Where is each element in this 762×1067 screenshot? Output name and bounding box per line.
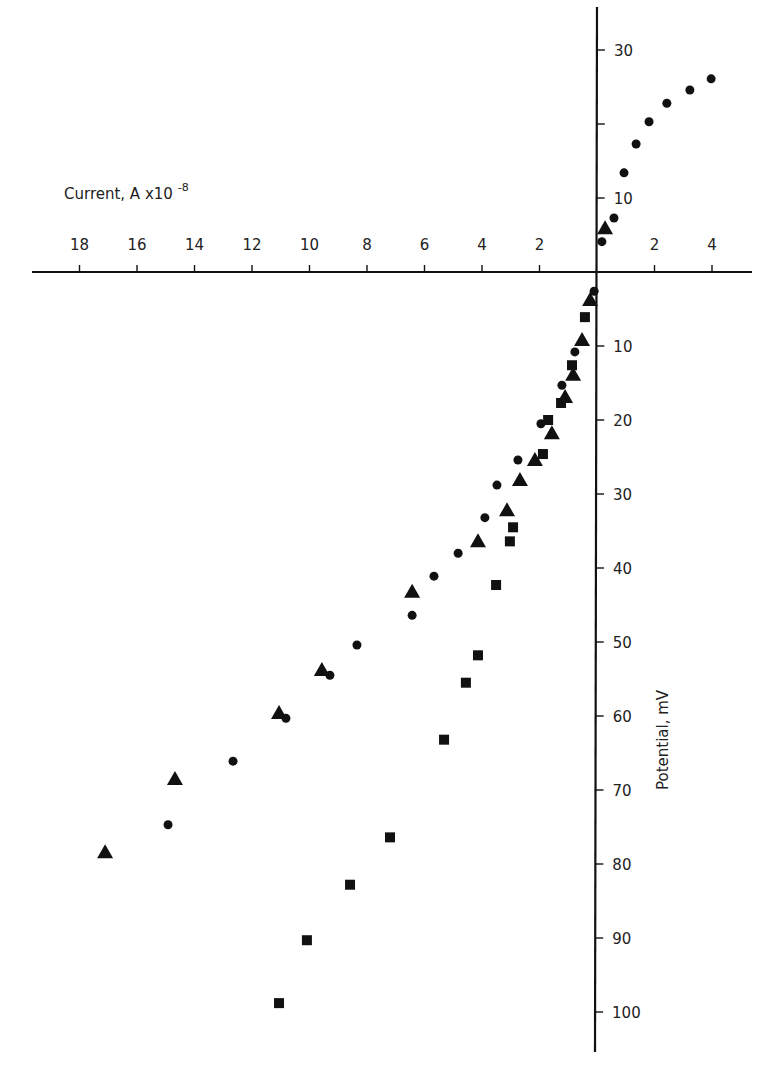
y-tick-label: 30 <box>613 486 632 504</box>
triangle-marker <box>314 662 330 676</box>
triangle-marker <box>167 771 183 785</box>
square-marker <box>567 360 577 370</box>
scatter-chart: 1816141210864224 30101020304050607080901… <box>0 0 762 1067</box>
circle-marker <box>609 213 618 222</box>
square-marker <box>491 580 501 590</box>
square-marker <box>538 449 548 459</box>
square-marker <box>580 312 590 322</box>
square-marker <box>543 415 553 425</box>
x-axis-title-text: Current, A x10 <box>64 185 173 203</box>
square-marker <box>302 935 312 945</box>
circle-marker <box>632 139 641 148</box>
square-marker <box>473 650 483 660</box>
circle-marker <box>408 611 417 620</box>
circle-marker <box>429 572 438 581</box>
x-tick-label: 12 <box>242 236 261 254</box>
circle-marker <box>164 820 173 829</box>
series-triangles <box>97 220 613 858</box>
circle-marker <box>662 99 671 108</box>
y-tick-label: 30 <box>614 42 633 60</box>
y-tick-label: 90 <box>612 930 631 948</box>
triangle-marker <box>512 472 528 486</box>
y-axis-title: Potential, mV <box>654 689 672 790</box>
x-tick-label: 18 <box>70 236 89 254</box>
circle-marker <box>492 481 501 490</box>
circle-marker <box>557 381 566 390</box>
x-axis-ticks: 1816141210864224 <box>70 236 717 272</box>
square-marker <box>508 522 518 532</box>
x-tick-label: 4 <box>477 236 487 254</box>
triangle-marker <box>544 425 560 439</box>
triangle-marker <box>271 705 287 719</box>
square-marker <box>461 678 471 688</box>
y-tick-label: 20 <box>613 412 632 430</box>
circle-marker <box>597 237 606 246</box>
y-tick-label: 50 <box>613 634 632 652</box>
x-tick-label: 2 <box>650 236 660 254</box>
triangle-marker <box>597 220 613 234</box>
square-marker <box>385 832 395 842</box>
y-axis-line <box>595 7 597 1052</box>
triangle-marker <box>574 332 590 346</box>
series-circles <box>164 74 716 829</box>
circle-marker <box>570 347 579 356</box>
axes <box>32 7 752 1052</box>
circle-marker <box>229 757 238 766</box>
series-squares <box>274 312 590 1008</box>
x-axis-title: Current, A x10 -8 <box>64 181 189 203</box>
triangle-marker <box>97 844 113 858</box>
y-tick-label: 80 <box>612 856 631 874</box>
x-tick-label: 10 <box>300 236 319 254</box>
y-axis-ticks: 3010102030405060708090100 <box>595 42 641 1022</box>
y-tick-label: 10 <box>614 190 633 208</box>
x-tick-label: 2 <box>535 236 545 254</box>
square-marker <box>274 998 284 1008</box>
x-tick-label: 16 <box>127 236 146 254</box>
square-marker <box>556 398 566 408</box>
circle-marker <box>707 74 716 83</box>
x-tick-label: 6 <box>420 236 430 254</box>
square-marker <box>439 735 449 745</box>
circle-marker <box>645 117 654 126</box>
y-tick-label: 60 <box>613 708 632 726</box>
y-tick-label: 40 <box>613 560 632 578</box>
triangle-marker <box>499 502 515 516</box>
triangle-marker <box>470 533 486 547</box>
x-tick-label: 14 <box>185 236 204 254</box>
x-tick-label: 8 <box>362 236 372 254</box>
y-tick-label: 100 <box>612 1004 641 1022</box>
x-tick-label: 4 <box>707 236 717 254</box>
y-tick-label: 70 <box>613 782 632 800</box>
square-marker <box>505 536 515 546</box>
circle-marker <box>685 85 694 94</box>
square-marker <box>345 880 355 890</box>
circle-marker <box>454 549 463 558</box>
circle-marker <box>620 168 629 177</box>
triangle-marker <box>404 584 420 598</box>
y-tick-label: 10 <box>613 338 632 356</box>
circle-marker <box>480 513 489 522</box>
x-axis-title-exponent: -8 <box>178 181 189 194</box>
circle-marker <box>513 455 522 464</box>
circle-marker <box>352 640 361 649</box>
